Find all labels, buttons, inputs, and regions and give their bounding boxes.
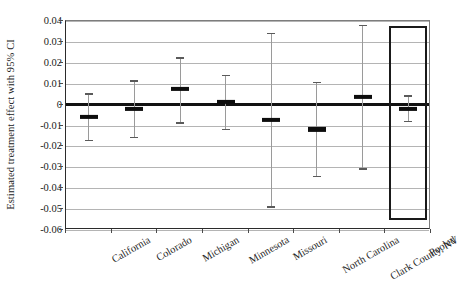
- x-axis-label-california: California: [110, 234, 152, 265]
- x-axis-tick-mark: [202, 229, 203, 233]
- ci-upper-cap: [130, 80, 138, 82]
- x-axis-tick-mark: [293, 229, 294, 233]
- plot-area: [65, 20, 430, 229]
- ci-lower-cap: [359, 168, 367, 170]
- ci-lower-cap: [130, 137, 138, 139]
- x-axis-tick-mark: [430, 229, 431, 233]
- ci-lower-cap: [313, 176, 321, 178]
- gridline: [66, 126, 429, 127]
- ci-upper-cap: [404, 95, 412, 97]
- y-axis-tick-mark: [59, 145, 63, 146]
- point-estimate-marker: [217, 100, 235, 104]
- y-axis-tick-label: 0.03: [4, 35, 62, 46]
- y-axis-tick-mark: [59, 41, 63, 42]
- ci-lower-cap: [222, 129, 230, 131]
- x-axis-tick-group: [65, 229, 430, 234]
- y-axis-tick-mark: [59, 166, 63, 167]
- y-axis-tick-label: 0.01: [4, 77, 62, 88]
- point-estimate-marker: [399, 106, 417, 110]
- x-axis-tick-mark: [65, 229, 66, 233]
- x-axis-label-pooled: Pooled: [427, 234, 458, 258]
- x-axis-tick-mark: [156, 229, 157, 233]
- y-axis-tick-mark: [59, 208, 63, 209]
- x-axis-tick-mark: [248, 229, 249, 233]
- gridline: [66, 167, 429, 168]
- y-axis-tick-group: 0.040.030.020.010-0.01-0.02-0.03-0.04-0.…: [0, 20, 62, 229]
- point-estimate-marker: [171, 87, 189, 91]
- ci-upper-cap: [222, 75, 230, 77]
- gridline: [66, 84, 429, 85]
- ci-lower-cap: [85, 140, 93, 142]
- y-axis-tick-label: -0.01: [4, 119, 62, 130]
- point-estimate-marker: [80, 115, 98, 119]
- y-axis-tick-mark: [59, 229, 63, 230]
- ci-lower-cap: [404, 121, 412, 123]
- y-axis-tick-mark: [59, 104, 63, 105]
- gridline: [66, 146, 429, 147]
- gridline: [66, 188, 429, 189]
- ci-lower-cap: [267, 206, 275, 208]
- ci-upper-cap: [313, 82, 321, 84]
- y-axis-tick-label: 0.04: [4, 15, 62, 26]
- y-axis-tick-mark: [59, 125, 63, 126]
- ci-upper-cap: [176, 57, 184, 59]
- ci-upper-cap: [267, 33, 275, 35]
- pooled-highlight-box: [389, 26, 427, 220]
- ci-lower-cap: [176, 122, 184, 124]
- y-axis-tick-label: -0.06: [4, 224, 62, 235]
- y-axis-tick-label: -0.05: [4, 203, 62, 214]
- gridline: [66, 209, 429, 210]
- x-axis-label-missouri: Missouri: [291, 234, 329, 262]
- point-estimate-marker: [125, 107, 143, 111]
- y-axis-tick-label: 0.02: [4, 56, 62, 67]
- y-axis-tick-mark: [59, 83, 63, 84]
- x-axis-tick-mark: [384, 229, 385, 233]
- x-axis-label-minnesota: Minnesota: [247, 234, 291, 266]
- point-estimate-marker: [354, 95, 372, 99]
- y-axis-tick-mark: [59, 62, 63, 63]
- point-estimate-marker: [262, 118, 280, 122]
- y-axis-tick-label: -0.04: [4, 182, 62, 193]
- y-axis-tick-label: -0.02: [4, 140, 62, 151]
- gridline: [66, 63, 429, 64]
- y-axis-tick-label: -0.03: [4, 161, 62, 172]
- y-axis-tick-mark: [59, 187, 63, 188]
- y-axis-tick-label: 0: [4, 98, 62, 109]
- x-axis-label-colorado: Colorado: [155, 234, 194, 263]
- point-estimate-marker: [308, 127, 326, 131]
- ci-upper-cap: [359, 25, 367, 27]
- ci-upper-cap: [85, 93, 93, 95]
- zero-reference-line: [66, 103, 429, 105]
- y-axis-tick-mark: [59, 20, 63, 21]
- x-axis-tick-mark: [111, 229, 112, 233]
- gridline: [66, 21, 429, 22]
- gridline: [66, 42, 429, 43]
- x-axis-label-michigan: Michigan: [200, 234, 240, 264]
- x-axis-tick-mark: [339, 229, 340, 233]
